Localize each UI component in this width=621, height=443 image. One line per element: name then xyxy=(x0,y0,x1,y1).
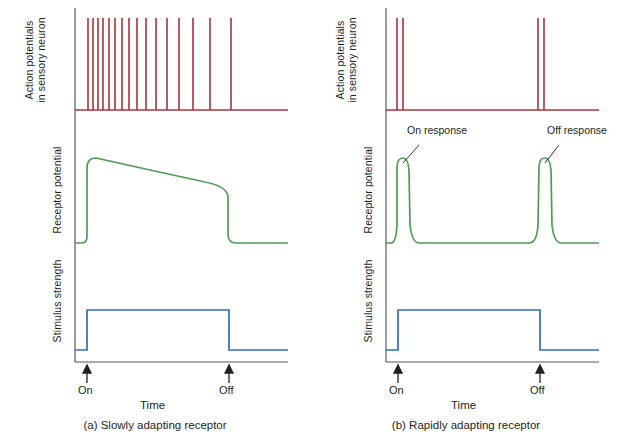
annotation-off-response: Off response xyxy=(547,124,607,136)
axis-label-time: Time xyxy=(451,399,476,411)
axis-label-time: Time xyxy=(140,399,165,411)
stimulus-strength-trace xyxy=(75,310,288,350)
on-response-leader-line xyxy=(403,145,419,163)
panel-a-caption: (a) Slowly adapting receptor xyxy=(0,419,310,431)
axis-label-stimulus-strength: Stimulus strength xyxy=(52,246,64,356)
on-marker-arrow xyxy=(394,365,402,383)
axis-label-action-potentials: Action potentials in sensory neuron xyxy=(24,10,47,110)
axis-label-line-2: in sensory neuron xyxy=(346,17,358,102)
tick-label-on: On xyxy=(389,384,404,396)
panel-rapidly-adapting: Action potentials in sensory neuron Rece… xyxy=(311,0,621,443)
spike-train-trace xyxy=(75,18,288,110)
off-response-leader-line xyxy=(545,145,559,163)
tick-label-off: Off xyxy=(219,384,233,396)
stimulus-strength-trace xyxy=(386,310,599,350)
panel-slowly-adapting: Action potentials in sensory neuron Rece… xyxy=(0,0,310,443)
axis-label-stimulus-strength: Stimulus strength xyxy=(363,246,375,356)
axis-label-action-potentials: Action potentials in sensory neuron xyxy=(335,10,358,110)
adaptation-figure: Action potentials in sensory neuron Rece… xyxy=(0,0,621,443)
on-marker-arrow xyxy=(83,365,91,383)
axis-label-line-1: Action potentials xyxy=(334,21,346,100)
annotation-on-response: On response xyxy=(407,124,467,136)
off-marker-arrow xyxy=(225,365,233,383)
axis-label-line-2: in sensory neuron xyxy=(35,17,47,102)
panel-b-caption: (b) Rapidly adapting receptor xyxy=(311,419,621,431)
axis-label-receptor-potential: Receptor potential xyxy=(52,135,64,245)
axis-label-receptor-potential: Receptor potential xyxy=(363,135,375,245)
receptor-potential-trace xyxy=(75,158,288,243)
axis-label-line-1: Action potentials xyxy=(23,21,35,100)
receptor-potential-trace xyxy=(386,158,599,243)
tick-label-on: On xyxy=(78,384,93,396)
spike-train-trace xyxy=(386,18,599,110)
off-marker-arrow xyxy=(536,365,544,383)
tick-label-off: Off xyxy=(530,384,544,396)
